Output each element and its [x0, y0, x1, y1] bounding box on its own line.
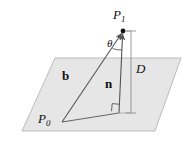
label-point-p1-base: P: [113, 7, 121, 22]
label-point-p0-base: P: [38, 111, 46, 126]
diagram-canvas: [0, 0, 189, 142]
label-vector-b: b: [62, 69, 69, 82]
label-distance-d: D: [136, 62, 145, 75]
label-point-p0: P0: [38, 112, 50, 125]
label-point-p0-subscript: 0: [46, 118, 50, 128]
label-point-p1: P1: [113, 8, 125, 21]
point-p1-dot: [121, 29, 126, 34]
angle-arc: [113, 49, 122, 50]
figure-container: P1 P0 θ D b n: [0, 0, 189, 142]
label-point-p1-subscript: 1: [121, 14, 125, 24]
label-vector-n: n: [105, 77, 112, 90]
label-angle-theta: θ: [107, 38, 112, 49]
